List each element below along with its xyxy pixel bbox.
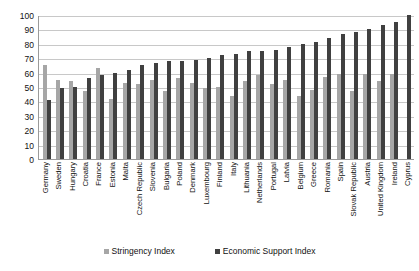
x-axis-tick-label: Italy [230,162,238,176]
x-axis-label-cell: France [93,162,106,238]
bar-economic-support [47,100,51,159]
x-axis-label-cell: Belgium [294,162,307,238]
bar-chart: 0102030405060708090100 GermanySwedenHung… [0,0,419,271]
x-axis-label-cell: Netherlands [254,162,267,238]
x-axis-label-cell: Luxembourg [200,162,213,238]
x-axis-label-cell: Austria [361,162,374,238]
x-axis-tick-label: Denmark [189,162,197,193]
x-axis-label-cell: Malta [120,162,133,238]
bar-economic-support [341,34,345,159]
x-axis-label-cell: Cyprus [401,162,414,238]
bar-group [134,16,147,159]
y-axis-tick-label: 20 [25,127,34,136]
bar-group [401,16,414,159]
x-axis-label-cell: Latvia [281,162,294,238]
x-axis-label-cell: Spain [334,162,347,238]
y-axis-tick-label: 90 [25,26,34,35]
x-axis-tick-label: Spain [337,162,345,181]
x-axis-labels: GermanySwedenHungaryCroatiaFranceEstonia… [39,162,415,238]
x-axis-label-cell: Finland [213,162,226,238]
bar-group [200,16,213,159]
bar-group [334,16,347,159]
bar-group [174,16,187,159]
bar-group [214,16,227,159]
bar-group [107,16,120,159]
x-axis-tick-label: Sweden [55,162,63,189]
bar-group [361,16,374,159]
x-axis-tick-label: United Kingdom [377,162,385,216]
x-axis-label-cell: Italy [227,162,240,238]
x-axis-label-cell: Ireland [388,162,401,238]
y-axis-tick-label: 50 [25,84,34,93]
bar-group [67,16,80,159]
legend-label: Economic Support Index [223,246,316,256]
x-axis-tick-label: Hungary [69,162,77,191]
x-axis-label-cell: Denmark [187,162,200,238]
x-axis-label-cell: Croatia [79,162,92,238]
bar-economic-support [167,61,171,159]
bar-economic-support [301,44,305,159]
x-axis-tick-label: Germany [42,162,50,193]
bar-economic-support [287,47,291,159]
x-axis-label-cell: Hungary [66,162,79,238]
y-axis-tick-label: 10 [25,141,34,150]
bar-economic-support [87,78,91,159]
bar-economic-support [100,75,104,159]
x-axis-tick-label: Romania [324,162,332,192]
x-axis-label-cell: Slovak Republic [348,162,361,238]
legend-swatch [104,249,109,254]
x-axis-label-cell: Portugal [267,162,280,238]
bar-economic-support [220,55,224,159]
x-axis-label-cell: Greece [307,162,320,238]
bar-economic-support [260,51,264,159]
x-axis-label-cell: Germany [39,162,52,238]
x-axis-tick-label: Belgium [297,162,305,189]
bar-economic-support [180,61,184,159]
bar-economic-support [73,87,77,159]
x-axis-label-cell: Czech Republic [133,162,146,238]
x-axis-tick-label: Bulgaria [163,162,171,190]
x-axis-tick-label: Estonia [109,162,117,187]
x-axis-tick-label: Poland [176,162,184,186]
bar-group [307,16,320,159]
bar-economic-support [234,54,238,159]
bar-group [93,16,106,159]
y-axis-tick-label: 80 [25,40,34,49]
bar-group [267,16,280,159]
bar-group [120,16,133,159]
x-axis-label-cell: Romania [321,162,334,238]
bar-group [280,16,293,159]
x-axis-tick-label: Portugal [270,162,278,190]
bar-group [227,16,240,159]
bar-group [347,16,360,159]
y-axis-tick-label: 30 [25,112,34,121]
x-axis-label-cell: Bulgaria [160,162,173,238]
bar-economic-support [247,51,251,159]
legend-label: Stringency Index [112,246,175,256]
bar-group [147,16,160,159]
bar-group [160,16,173,159]
x-axis-tick-label: Cyprus [404,162,412,186]
x-axis-tick-label: Czech Republic [136,162,144,215]
legend-item: Economic Support Index [215,246,316,256]
chart-legend: Stringency IndexEconomic Support Index [0,246,419,256]
bar-groups [40,16,414,159]
bar-group [240,16,253,159]
bar-economic-support [154,63,158,159]
legend-swatch [215,249,220,254]
bar-group [294,16,307,159]
x-axis-label-cell: Lithuania [240,162,253,238]
x-axis-label-cell: Poland [173,162,186,238]
x-axis-tick-label: Austria [364,162,372,186]
bar-economic-support [113,73,117,159]
bar-group [80,16,93,159]
x-axis-tick-label: Latvia [283,162,291,182]
x-axis-tick-label: Croatia [82,162,90,186]
bar-economic-support [407,15,411,159]
x-axis-tick-label: Greece [310,162,318,187]
bar-economic-support [394,22,398,159]
x-axis-tick-label: Slovenia [149,162,157,191]
bar-group [187,16,200,159]
y-axis-labels: 0102030405060708090100 [0,16,34,160]
bar-economic-support [274,50,278,159]
